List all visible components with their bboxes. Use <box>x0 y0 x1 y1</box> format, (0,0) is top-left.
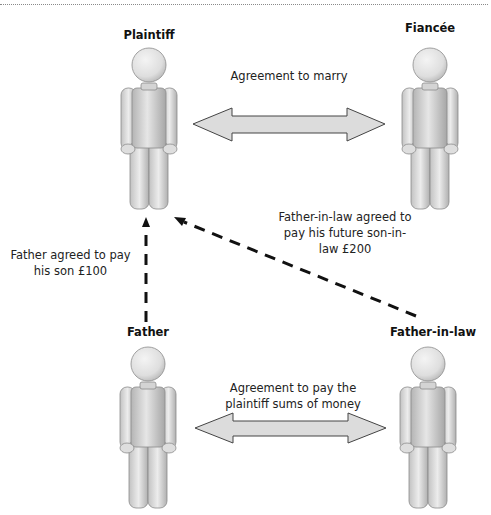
plaintiff-figure <box>121 48 177 209</box>
plaintiff-name: Plaintiff <box>104 28 194 42</box>
father-in-law-promise-line2: pay his future son-in- <box>270 225 420 241</box>
father-in-law-promise-line3: law £200 <box>270 241 420 257</box>
fiancee-name: Fiancée <box>385 21 475 35</box>
marriage-agreement-arrow <box>193 108 385 141</box>
payment-agreement-label: Agreement to pay the plaintiff sums of m… <box>218 380 368 412</box>
father-promise-line1: Father agreed to pay <box>8 247 133 263</box>
father-in-law-promise-label: Father-in-law agreed to pay his future s… <box>270 209 420 257</box>
father-promise-label: Father agreed to pay his son £100 <box>8 247 133 279</box>
payment-agreement-line1: Agreement to pay the <box>218 380 368 396</box>
payment-agreement-line2: plaintiff sums of money <box>218 396 368 412</box>
marriage-agreement-label: Agreement to marry <box>224 68 354 84</box>
father-in-law-name: Father-in-law <box>378 325 488 339</box>
father-in-law-figure <box>400 347 456 508</box>
payment-agreement-arrow <box>195 413 386 443</box>
father-promise-line2: his son £100 <box>8 263 133 279</box>
father-name: Father <box>103 325 193 339</box>
father-in-law-promise-line1: Father-in-law agreed to <box>270 209 420 225</box>
fiancee-figure <box>402 48 458 209</box>
father-figure <box>120 347 176 508</box>
